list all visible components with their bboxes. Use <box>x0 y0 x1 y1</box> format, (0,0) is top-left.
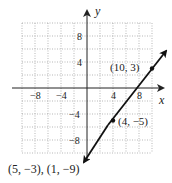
y-tick-label: 8 <box>77 31 82 42</box>
coordinate-plane: x y −8 −4 4 8 8 4 −4 −8 (10, 3) (4, −5) <box>0 0 172 183</box>
x-tick-label: 8 <box>137 90 142 101</box>
y-tick-label: −8 <box>69 135 80 146</box>
caption-points: (5, −3), (1, −9) <box>8 162 80 177</box>
plotted-line <box>84 125 108 162</box>
point-label-10-3: (10, 3) <box>110 61 140 74</box>
x-tick-label: −4 <box>56 90 67 101</box>
x-tick-label: −8 <box>30 90 41 101</box>
y-tick-label: −4 <box>69 109 80 120</box>
point-4-neg5 <box>111 118 115 122</box>
y-axis-label: y <box>94 4 101 18</box>
x-axis-label: x <box>158 93 165 107</box>
x-tick-label: 4 <box>111 90 116 101</box>
y-tick-label: 4 <box>77 57 82 68</box>
point-label-4-neg5: (4, −5) <box>118 115 148 128</box>
point-10-3 <box>150 66 154 70</box>
